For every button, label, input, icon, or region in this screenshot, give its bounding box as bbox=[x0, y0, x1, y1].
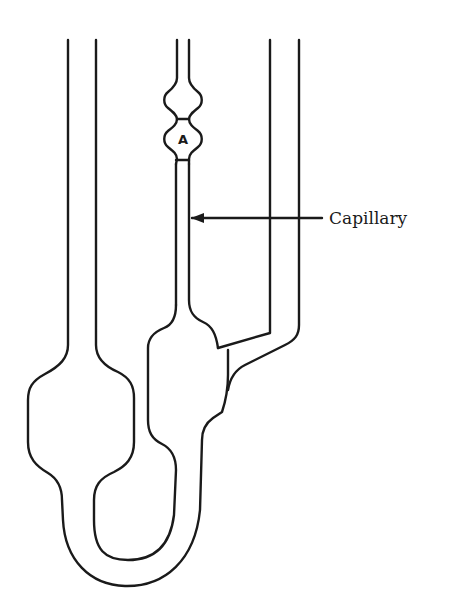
lower-bulb-connector bbox=[218, 40, 270, 348]
capillary-tube bbox=[176, 164, 218, 348]
left-filling-tube bbox=[28, 40, 228, 586]
capillary-label: Capillary bbox=[329, 208, 408, 228]
capillary-pointer-arrow bbox=[191, 213, 322, 223]
right-vent-tube bbox=[228, 40, 299, 390]
viscometer-diagram: A Capillary bbox=[0, 0, 461, 607]
bulb-a-label: A bbox=[178, 132, 188, 147]
arrowhead-icon bbox=[191, 213, 204, 223]
reservoir-bulb bbox=[94, 40, 176, 560]
